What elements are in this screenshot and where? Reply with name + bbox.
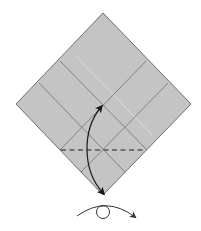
origami-diagram <box>0 0 201 231</box>
turn-over-circle <box>97 206 110 219</box>
turn-over-symbol <box>77 206 135 219</box>
paper-square <box>16 13 191 195</box>
diagram-canvas <box>0 0 201 231</box>
turn-over-arrow <box>77 206 135 217</box>
